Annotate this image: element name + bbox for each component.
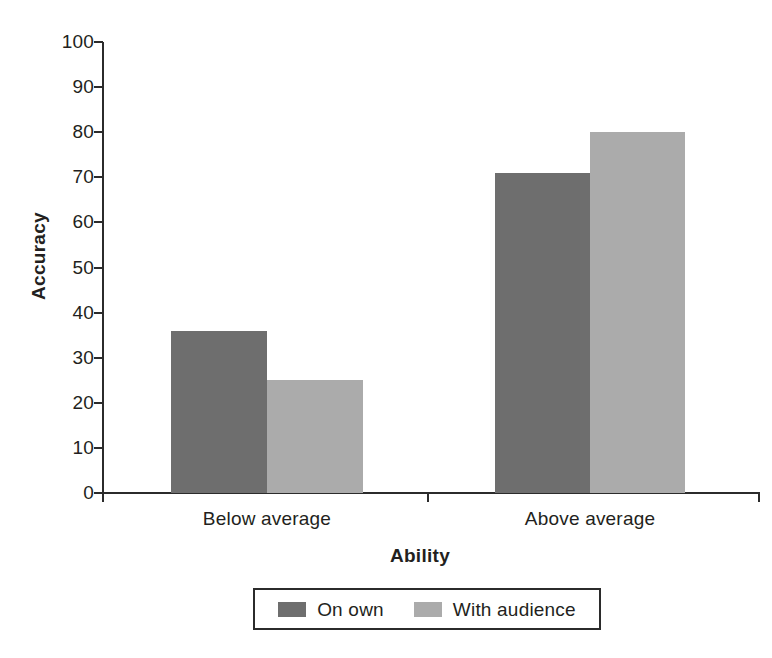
x-axis-title: Ability <box>0 545 772 567</box>
bar <box>267 380 363 493</box>
y-tick-label-text: 50 <box>48 258 94 277</box>
legend-swatch <box>278 602 306 617</box>
x-tick-mark <box>758 493 760 502</box>
bar <box>495 173 590 493</box>
y-tick-label-text: 80 <box>48 122 94 141</box>
y-tick-label: 90 <box>34 77 94 96</box>
y-tick-mark <box>94 131 103 133</box>
category-label: Above average <box>494 508 686 530</box>
legend-label: With audience <box>453 600 576 619</box>
y-tick-label: 30 <box>34 348 94 367</box>
category-label: Below average <box>171 508 363 530</box>
y-tick-mark <box>94 267 103 269</box>
y-tick-label-text: 0 <box>48 483 94 502</box>
y-tick-label-text: 70 <box>48 167 94 186</box>
chart-legend: On ownWith audience <box>253 588 601 630</box>
y-tick-mark <box>94 41 103 43</box>
legend-label: On own <box>317 600 384 619</box>
bar <box>590 132 685 493</box>
y-tick-label-text: 10 <box>48 438 94 457</box>
legend-entry: On own <box>278 600 384 619</box>
y-tick-mark <box>94 357 103 359</box>
bar-chart: 0102030405060708090100 Below averageAbov… <box>0 0 772 658</box>
legend-swatch <box>414 602 442 617</box>
y-tick-mark <box>94 221 103 223</box>
legend-entry: With audience <box>414 600 576 619</box>
y-tick-mark <box>94 312 103 314</box>
y-tick-label: 70 <box>34 167 94 186</box>
y-tick-label-text: 100 <box>48 32 94 51</box>
y-tick-mark <box>94 402 103 404</box>
y-tick-mark <box>94 447 103 449</box>
x-tick-mark <box>427 493 429 502</box>
y-tick-mark <box>94 176 103 178</box>
y-axis-title: Accuracy <box>28 196 50 316</box>
bar <box>171 331 267 493</box>
y-tick-label: 80 <box>34 122 94 141</box>
x-axis-title-text: Ability <box>390 545 450 567</box>
y-tick-label-text: 90 <box>48 77 94 96</box>
y-tick-label-text: 20 <box>48 393 94 412</box>
y-tick-label-text: 60 <box>48 212 94 231</box>
y-tick-label: 0 <box>34 483 94 502</box>
y-tick-mark <box>94 86 103 88</box>
x-tick-mark <box>102 493 104 502</box>
y-tick-label: 10 <box>34 438 94 457</box>
bars-layer <box>103 42 760 493</box>
y-tick-label: 100 <box>34 32 94 51</box>
y-tick-label: 20 <box>34 393 94 412</box>
y-tick-label-text: 40 <box>48 303 94 322</box>
y-tick-label-text: 30 <box>48 348 94 367</box>
